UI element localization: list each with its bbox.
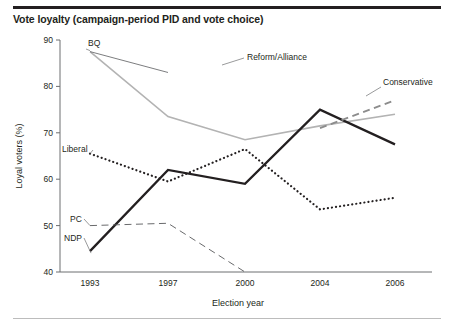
axis-titles-group: Election yearLoyal voters (%)	[14, 123, 264, 308]
series-line-liberal	[90, 149, 395, 209]
y-tick-label: 80	[44, 81, 54, 91]
leader-line-reform-alliance	[222, 58, 244, 65]
series-label-reform-alliance: Reform/Alliance	[247, 52, 307, 62]
leader-line-conservative	[366, 87, 381, 96]
series-line-bq	[90, 52, 395, 140]
series-label-bq: BQ	[88, 38, 101, 48]
x-tick-label: 2004	[311, 278, 330, 288]
series-label-pc: PC	[70, 214, 82, 224]
leader-line-ndp	[84, 238, 91, 253]
x-tick-label: 1997	[159, 278, 178, 288]
figure-container: Vote loyalty (campaign-period PID and vo…	[0, 0, 454, 331]
series-line-ndp	[90, 110, 395, 252]
bottom-rule	[13, 318, 441, 319]
leader-line-bq	[86, 49, 90, 51]
y-axis-title: Loyal voters (%)	[14, 123, 24, 188]
y-tick-label: 90	[44, 35, 54, 45]
leader-line-liberal	[90, 150, 93, 154]
x-tick-label: 2006	[386, 278, 405, 288]
y-tick-label: 70	[44, 128, 54, 138]
axes-group: 40506070809019931997200020042006	[44, 35, 432, 288]
series-line-pc	[90, 223, 245, 272]
x-tick-label: 1993	[81, 278, 100, 288]
series-label-ndp: NDP	[64, 233, 82, 243]
line-chart: 40506070809019931997200020042006 BQRefor…	[0, 0, 454, 331]
y-tick-label: 60	[44, 174, 54, 184]
leader-line-pc	[84, 219, 90, 226]
series-group	[90, 52, 395, 272]
series-label-conservative: Conservative	[383, 77, 433, 87]
series-label-liberal: Liberal	[62, 144, 88, 154]
x-tick-label: 2000	[236, 278, 255, 288]
y-tick-label: 40	[44, 267, 54, 277]
y-tick-label: 50	[44, 221, 54, 231]
x-axis-title: Election year	[212, 298, 264, 308]
